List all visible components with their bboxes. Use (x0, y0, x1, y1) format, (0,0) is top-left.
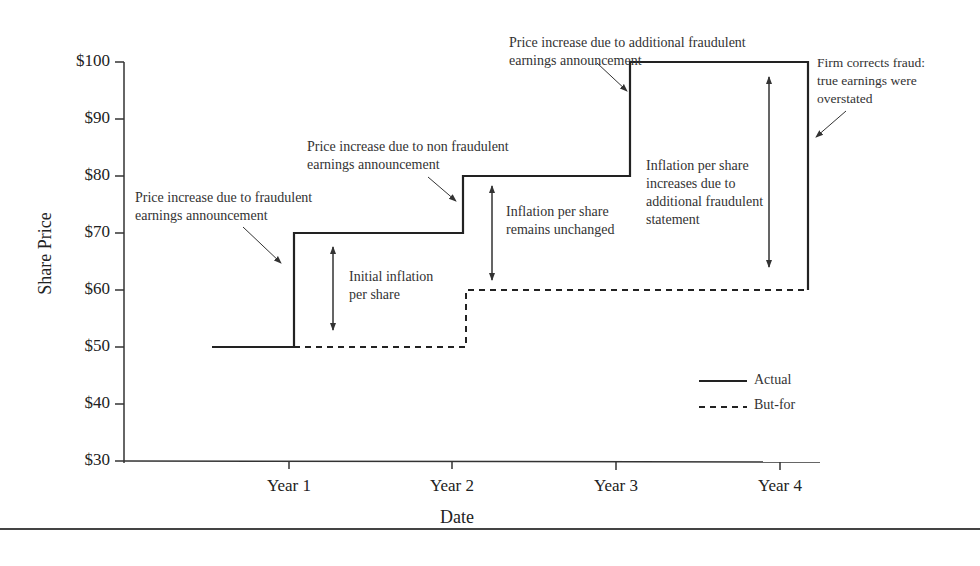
annotation-inflation-unchanged: Inflation per share remains unchanged (506, 203, 614, 239)
annotation-line: Initial inflation (349, 268, 433, 286)
annotation-fraudulent-announcement: Price increase due to fraudulent earning… (135, 189, 312, 225)
y-tick-40: $40 (40, 393, 110, 413)
page-divider (0, 528, 980, 530)
annotation-line: Price increase due to non fraudulent (307, 138, 509, 156)
legend-actual-label: Actual (754, 372, 791, 388)
y-tick-80: $80 (40, 165, 110, 185)
x-tick-year3: Year 3 (576, 476, 656, 496)
y-axis-title: Share Price (35, 199, 56, 309)
annotation-initial-inflation: Initial inflation per share (349, 268, 433, 304)
annotation-line: Inflation per share (506, 203, 614, 221)
x-tick-year2: Year 2 (412, 476, 492, 496)
annotation-line: Inflation per share (646, 157, 763, 175)
annotation-line: increases due to (646, 175, 763, 193)
y-tick-100: $100 (40, 51, 110, 71)
x-tick-year4: Year 4 (740, 476, 820, 496)
annotation-line: remains unchanged (506, 221, 614, 239)
legend-butfor-label: But-for (754, 397, 795, 413)
x-axis (124, 461, 820, 470)
annotation-line: Price increase due to additional fraudul… (509, 34, 746, 52)
y-tick-90: $90 (40, 108, 110, 128)
annotation-inflation-increases: Inflation per share increases due to add… (646, 157, 763, 229)
annotation-line: additional fraudulent (646, 193, 763, 211)
annotation-line: earnings announcement (307, 156, 509, 174)
x-tick-year1: Year 1 (249, 476, 329, 496)
x-axis-title: Date (427, 507, 487, 528)
annotation-line: statement (646, 211, 763, 229)
annotation-line: true earnings were (817, 72, 925, 90)
annotation-line: per share (349, 286, 433, 304)
annotation-firm-corrects-fraud: Firm corrects fraud: true earnings were … (817, 54, 925, 108)
annotation-line: earnings announcement (135, 207, 312, 225)
annotation-nonfraudulent-announcement: Price increase due to non fraudulent ear… (307, 138, 509, 174)
y-tick-30: $30 (40, 450, 110, 470)
y-axis (115, 62, 124, 463)
annotation-line: earnings announcement (509, 52, 746, 70)
annotation-additional-fraudulent: Price increase due to additional fraudul… (509, 34, 746, 70)
annotation-line: Firm corrects fraud: (817, 54, 925, 72)
annotation-line: Price increase due to fraudulent (135, 189, 312, 207)
y-tick-50: $50 (40, 336, 110, 356)
annotation-line: overstated (817, 90, 925, 108)
